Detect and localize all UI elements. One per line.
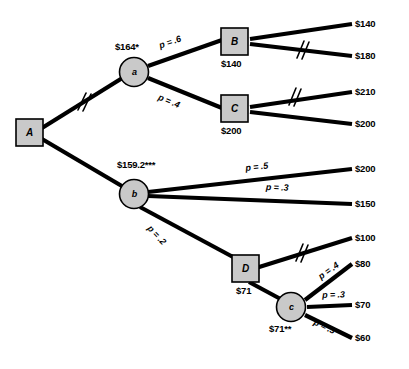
payoff-140: $140 xyxy=(355,19,375,29)
branch-b-to-150[interactable] xyxy=(148,196,352,204)
payoff-150: $150 xyxy=(355,199,375,209)
payoff-100: $100 xyxy=(355,233,375,243)
node-b-value: $159.2*** xyxy=(117,160,155,170)
branch-A-to-a[interactable] xyxy=(42,72,132,128)
payoff-200-from-C: $200 xyxy=(355,119,375,129)
branch-C-to-200[interactable] xyxy=(250,112,352,124)
prob-c-to-70: p = .3 xyxy=(322,290,345,300)
decision-tree-canvas xyxy=(0,0,409,369)
node-B-label: B xyxy=(221,36,248,47)
node-C-label: C xyxy=(221,103,248,114)
node-a-label: a xyxy=(120,67,149,77)
branch-C-to-210[interactable] xyxy=(250,92,352,107)
prune-mark-C-to-210 xyxy=(289,88,301,106)
node-C-value: $200 xyxy=(221,126,241,136)
payoff-60: $60 xyxy=(355,333,370,343)
branch-B-to-140[interactable] xyxy=(250,24,352,39)
node-a-value: $164* xyxy=(115,42,139,52)
node-B-value: $140 xyxy=(221,59,241,69)
node-D-value: $71 xyxy=(236,286,251,296)
node-D-label: D xyxy=(232,263,259,274)
payoff-80: $80 xyxy=(355,259,370,269)
node-b-label: b xyxy=(120,189,149,199)
node-c-label: c xyxy=(277,302,306,312)
payoff-180: $180 xyxy=(355,51,375,61)
payoff-70: $70 xyxy=(355,300,370,310)
payoff-210: $210 xyxy=(355,87,375,97)
branch-c-to-70[interactable] xyxy=(307,305,352,307)
payoff-200-from-b: $200 xyxy=(355,164,375,174)
node-c-value: $71** xyxy=(269,324,291,334)
node-A-label: A xyxy=(16,127,43,138)
prob-b-to-150: p = .3 xyxy=(266,183,289,193)
